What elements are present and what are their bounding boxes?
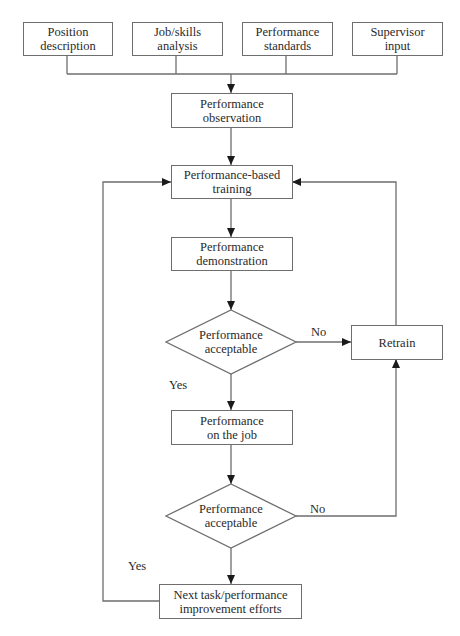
edge-label-d1-no: No xyxy=(311,325,326,339)
edge-label-d2-no: No xyxy=(310,502,325,516)
decision-2-label: Performance acceptable xyxy=(171,500,291,532)
node-next-task-improvement: Next task/performance improvement effort… xyxy=(159,584,302,619)
node-performance-demonstration: Performance demonstration xyxy=(171,237,293,271)
node-performance-observation: Performance observation xyxy=(171,93,293,128)
decision-1-label: Performance acceptable xyxy=(171,326,291,358)
input-performance-standards: Performance standards xyxy=(242,22,333,56)
node-retrain: Retrain xyxy=(351,325,443,360)
edge-label-d1-yes: Yes xyxy=(169,378,187,392)
input-supervisor-input: Supervisor input xyxy=(352,22,443,56)
input-position-description: Position description xyxy=(23,22,113,56)
input-job-skills-analysis: Job/skills analysis xyxy=(132,22,223,56)
node-performance-based-training: Performance-based training xyxy=(171,165,293,199)
node-performance-on-the-job: Performance on the job xyxy=(171,410,293,445)
edge-label-d2-yes: Yes xyxy=(128,559,146,573)
